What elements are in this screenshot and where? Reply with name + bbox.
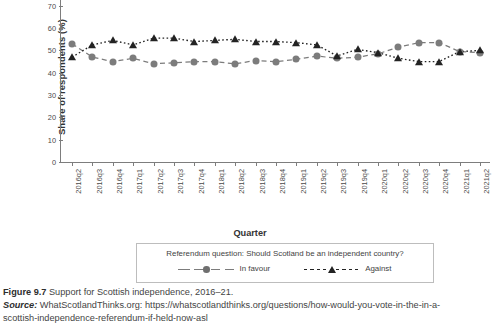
x-tick-label: 2021q2 [483,169,490,194]
triangle-marker [374,49,382,56]
triangle-marker [231,35,239,42]
triangle-marker [190,38,198,45]
y-tick-label: 60 [26,25,56,32]
triangle-marker [211,37,219,44]
y-tick-label: 20 [26,114,56,121]
x-axis-title: Quarter [0,228,500,238]
legend-item-in-favour: In favour [178,265,270,274]
circle-marker [89,54,96,61]
source-label: Source: [3,300,37,310]
x-tick-label: 2018q1 [218,169,225,194]
x-tick-label: 2021q1 [463,169,470,194]
circle-marker [293,56,300,63]
circle-marker [191,58,198,65]
x-tick-label: 2018q2 [238,169,245,194]
circle-marker [150,60,157,67]
x-tick-label: 2019q4 [361,169,368,194]
triangle-marker [129,41,137,48]
series-lines [60,0,490,163]
triangle-marker [313,41,321,48]
y-tick-label: 30 [26,92,56,99]
triangle-marker [252,38,260,45]
x-tick-label: 2016q3 [96,169,103,194]
x-tick-label: 2016q2 [75,169,82,194]
triangle-marker [292,39,300,46]
x-tick-label: 2018q3 [259,169,266,194]
legend-label-against: Against [365,265,391,273]
y-tick-label: 0 [26,159,56,166]
triangle-marker-icon [304,265,360,274]
circle-marker [313,53,320,60]
triangle-marker [415,58,423,65]
x-tick-label: 2020q3 [422,169,429,194]
triangle-marker [354,45,362,52]
circle-marker [171,59,178,66]
source-text: WhatScotlandThinks.org: https://whatscot… [40,300,440,310]
figure-source: Source: WhatScotlandThinks.org: https://… [3,299,500,312]
x-tick-label: 2017q1 [136,169,143,194]
triangle-marker [456,48,464,55]
circle-marker [232,60,239,67]
figure-container: Share of respondents (%) 010203040506070… [0,0,500,325]
x-tick-label: 2019q3 [340,169,347,194]
legend-question: Referendum question: Should Scotland be … [137,250,433,258]
circle-marker [109,58,116,65]
triangle-marker [333,52,341,59]
x-tick-label: 2017q4 [198,169,205,194]
x-tick-label: 2018q4 [279,169,286,194]
circle-marker [69,40,76,47]
x-tick-label: 2020q2 [402,169,409,194]
y-tick-label: 70 [26,2,56,9]
x-tick-label: 2016q4 [116,169,123,194]
triangle-marker [150,34,158,41]
triangle-marker [435,58,443,65]
figure-caption: Figure 9.7 Support for Scottish independ… [3,286,497,299]
circle-marker [395,44,402,51]
circle-marker [252,57,259,64]
triangle-marker [88,41,96,48]
x-tick-label: 2017q3 [177,169,184,194]
triangle-marker [272,38,280,45]
y-tick-label: 10 [26,136,56,143]
x-tick-label: 2020q4 [442,169,449,194]
triangle-marker [68,53,76,60]
source-text-line2: scottish-independence-referendum-if-held… [3,312,500,325]
x-tick-label: 2020q1 [381,169,388,194]
y-tick-label: 50 [26,47,56,54]
chart-legend: Referendum question: Should Scotland be … [136,243,434,283]
legend-label-in-favour: In favour [239,265,270,273]
circle-marker [415,39,422,46]
circle-marker [273,58,280,65]
chart-plot-area: Share of respondents (%) 010203040506070… [60,0,490,163]
circle-marker [130,55,137,62]
triangle-marker [476,47,484,54]
triangle-marker [170,34,178,41]
circle-marker-icon [178,265,234,274]
circle-marker [354,54,361,61]
x-tick-label: 2019q1 [300,169,307,194]
figure-caption-text: Support for Scottish independence, 2016–… [49,287,233,297]
y-tick-label: 40 [26,69,56,76]
figure-number: Figure 9.7 [3,287,46,297]
triangle-marker [109,37,117,44]
x-tick-label: 2017q2 [157,169,164,194]
legend-item-against: Against [304,265,391,274]
circle-marker [211,58,218,65]
circle-marker [436,39,443,46]
triangle-marker [394,54,402,61]
x-tick-label: 2019q2 [320,169,327,194]
